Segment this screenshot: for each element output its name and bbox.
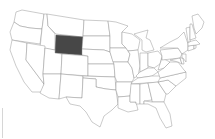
state-iowa[interactable] (110, 48, 130, 62)
state-kansas[interactable] (88, 64, 115, 77)
state-north-dakota[interactable] (83, 20, 110, 36)
state-new-mexico[interactable] (59, 74, 83, 99)
us-map (0, 0, 215, 139)
state-colorado[interactable] (61, 54, 88, 76)
state-rhode-island[interactable] (194, 45, 196, 49)
state-florida[interactable] (144, 101, 172, 128)
state-mississippi[interactable] (130, 84, 140, 104)
state-arizona[interactable] (40, 74, 61, 99)
state-arkansas[interactable] (116, 82, 132, 97)
state-wyoming[interactable] (55, 35, 83, 55)
